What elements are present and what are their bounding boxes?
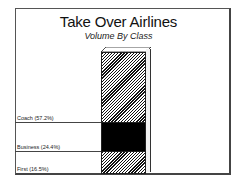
label-business: Business (24.4%)	[17, 144, 60, 150]
leader-coach	[15, 122, 101, 123]
chart-subtitle: Volume By Class	[0, 31, 237, 41]
label-coach: Coach (57.2%)	[17, 115, 54, 121]
bar-side-first	[146, 151, 151, 172]
leader-business	[15, 151, 101, 152]
label-first: First (16.5%)	[17, 166, 48, 172]
bar-side-coach	[146, 49, 151, 123]
bar-segment-first[interactable]	[101, 151, 146, 174]
bar-segment-coach[interactable]	[101, 52, 146, 123]
chart-title: Take Over Airlines	[0, 13, 237, 30]
bar-side-business	[146, 122, 151, 152]
bar-segment-business[interactable]	[101, 122, 146, 152]
